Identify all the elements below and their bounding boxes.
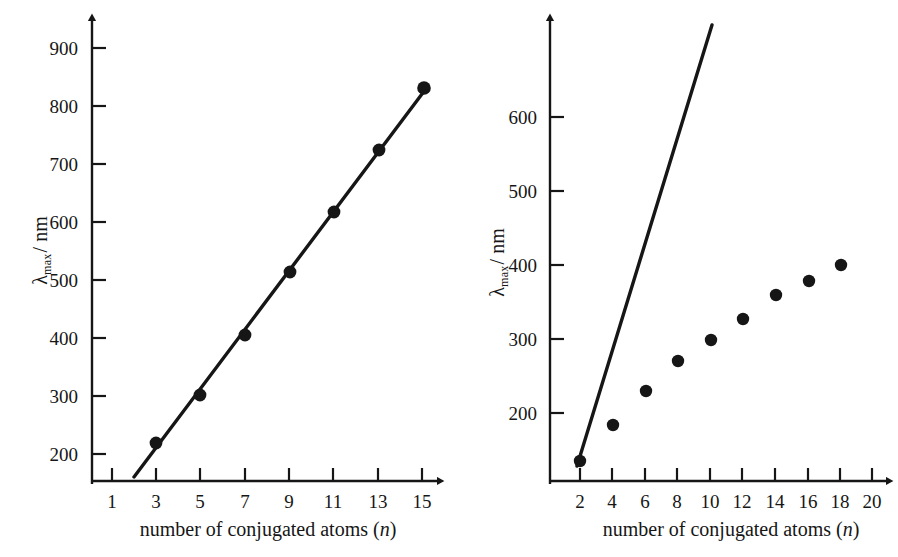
x-tick-label: 10 (701, 492, 720, 511)
x-tick-label: 13 (369, 492, 388, 511)
y-tick-marks (92, 48, 106, 454)
data-point (239, 329, 252, 342)
lambda-symbol: λ (29, 275, 51, 285)
data-point (705, 334, 717, 346)
y-axis-caption: λmax/ nm (29, 215, 52, 284)
data-point (194, 389, 207, 402)
x-caption-variable: n (380, 518, 390, 540)
y-tick-label: 200 (30, 445, 78, 464)
x-tick-label: 15 (413, 492, 432, 511)
y-tick-label: 400 (30, 329, 78, 348)
x-axis-caption: number of conjugated atoms (n) (603, 518, 860, 541)
y-axis-unit: / nm (486, 227, 508, 265)
fitted-line (134, 86, 428, 477)
chart-panel-right: 600 500 400 300 200 2 4 6 8 10 12 14 16 … (449, 0, 898, 557)
y-tick-marks (550, 117, 564, 413)
x-tick-label: 8 (672, 492, 682, 511)
x-tick-label: 6 (640, 492, 650, 511)
data-point (835, 259, 847, 271)
x-tick-marks (112, 468, 422, 481)
x-tick-label: 18 (831, 492, 850, 511)
x-axis-caption: number of conjugated atoms (n) (140, 518, 397, 541)
x-tick-label: 9 (284, 492, 294, 511)
x-tick-label: 4 (607, 492, 617, 511)
data-point (284, 266, 297, 279)
lambda-subscript: max (40, 253, 54, 275)
y-axis-unit: / nm (29, 215, 51, 253)
x-caption-text: number of conjugated atoms ( (140, 518, 380, 540)
x-tick-label: 11 (324, 492, 342, 511)
y-tick-label: 600 (487, 108, 537, 127)
lambda-symbol: λ (486, 287, 508, 297)
x-caption-close: ) (390, 518, 397, 540)
data-point (770, 289, 782, 301)
x-caption-close: ) (853, 518, 860, 540)
data-point (574, 455, 586, 467)
data-point (373, 144, 386, 157)
x-caption-text: number of conjugated atoms ( (603, 518, 843, 540)
x-tick-label: 7 (240, 492, 250, 511)
y-tick-label: 300 (30, 387, 78, 406)
data-point (737, 313, 749, 325)
y-tick-label: 800 (30, 97, 78, 116)
y-tick-label: 200 (487, 404, 537, 423)
x-tick-label: 12 (733, 492, 752, 511)
chart-panel-left: 900 800 700 600 500 400 300 200 1 3 5 7 … (0, 0, 449, 557)
data-point (640, 385, 652, 397)
y-axis-caption: λmax/ nm (486, 227, 509, 296)
x-tick-label: 3 (151, 492, 161, 511)
data-point (417, 81, 431, 95)
y-tick-label: 900 (30, 39, 78, 58)
x-tick-label: 16 (799, 492, 818, 511)
y-tick-label: 300 (487, 330, 537, 349)
x-tick-label: 20 (863, 492, 882, 511)
y-tick-label: 500 (487, 182, 537, 201)
plot-area-right (449, 0, 898, 557)
data-point (803, 275, 815, 287)
y-tick-label: 700 (30, 155, 78, 174)
figure-container: 900 800 700 600 500 400 300 200 1 3 5 7 … (0, 0, 898, 557)
x-tick-label: 2 (575, 492, 585, 511)
x-tick-label: 5 (195, 492, 205, 511)
x-caption-variable: n (843, 518, 853, 540)
data-point (150, 437, 163, 450)
data-point (672, 355, 684, 367)
x-tick-label: 1 (107, 492, 117, 511)
data-point (328, 206, 341, 219)
x-tick-marks (580, 468, 872, 481)
data-point (607, 419, 619, 431)
lambda-subscript: max (497, 265, 511, 287)
theoretical-line (577, 25, 712, 466)
data-points (574, 259, 847, 467)
x-tick-label: 14 (766, 492, 785, 511)
